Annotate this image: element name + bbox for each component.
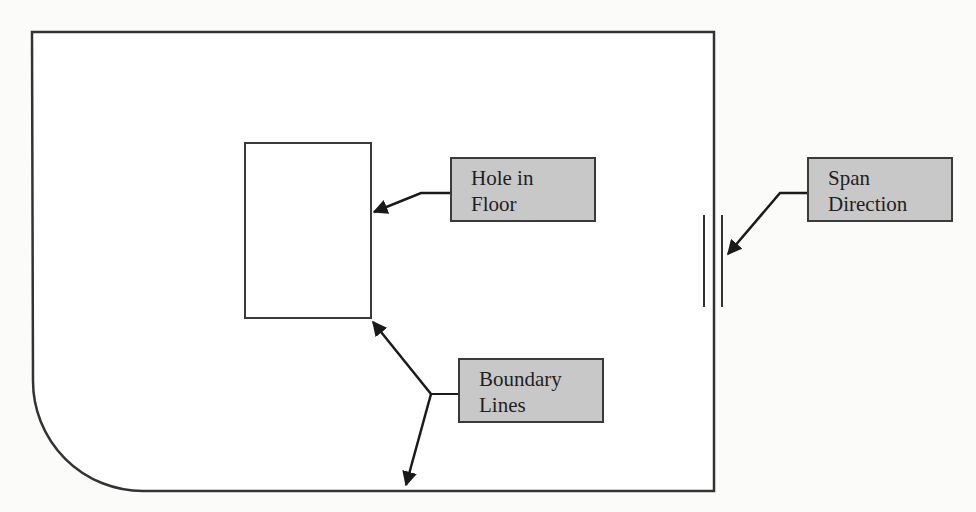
label-boundary-lines-line1: Boundary [479,366,602,392]
diagram-canvas: Hole in Floor Span Direction Boundary Li… [0,0,976,512]
label-hole-in-floor-line1: Hole in [471,165,594,191]
label-boundary-lines-line2: Lines [479,392,602,418]
span-leader-arrow [728,193,807,254]
label-span-direction-line1: Span [828,165,951,191]
label-boundary-lines: Boundary Lines [458,358,604,423]
label-hole-in-floor-line2: Floor [471,191,594,217]
label-hole-in-floor: Hole in Floor [450,157,596,222]
label-span-direction: Span Direction [807,157,953,222]
label-span-direction-line2: Direction [828,191,951,217]
floor-hole-rect [245,143,371,318]
floor-boundary-outline [32,32,714,491]
floor-plan-diagram [0,0,976,512]
